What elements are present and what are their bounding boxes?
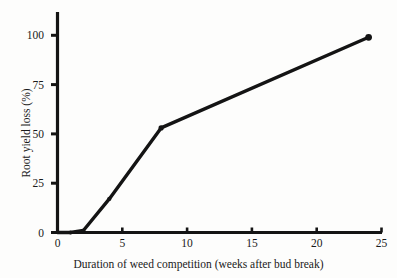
x-tick-label-10: 10 xyxy=(181,237,193,249)
x-tick-label-20: 20 xyxy=(311,237,323,249)
x-tick-label-0: 0 xyxy=(55,237,61,249)
x-axis-title: Duration of weed competition (weeks afte… xyxy=(0,258,397,270)
data-point-marker xyxy=(107,197,111,201)
y-axis-title: Root yield loss (%) xyxy=(20,33,32,233)
data-point-marker xyxy=(69,231,73,235)
chart-figure: 0 25 50 75 100 0 5 10 15 20 25 Duration … xyxy=(0,0,397,278)
data-point-marker xyxy=(365,34,372,41)
x-tick-label-15: 15 xyxy=(246,237,258,249)
x-tick-label-25: 25 xyxy=(376,237,388,249)
x-tick-label-5: 5 xyxy=(119,237,125,249)
data-point-marker xyxy=(159,125,164,130)
data-series-line xyxy=(58,37,369,232)
data-point-marker xyxy=(82,229,86,233)
data-point-markers xyxy=(69,34,372,235)
